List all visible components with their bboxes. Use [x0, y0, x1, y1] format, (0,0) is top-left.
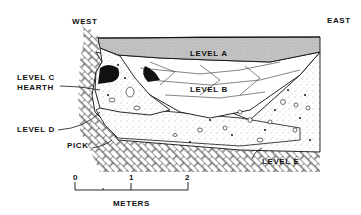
scale-tick-1: 1 — [129, 173, 134, 182]
label-pick: PICK — [67, 141, 89, 150]
scale-tick-2: 2 — [185, 173, 190, 182]
label-east: EAST — [327, 16, 351, 25]
label-hearth: HEARTH — [17, 83, 54, 92]
stratigraphy-section — [0, 0, 361, 215]
scale-bar — [75, 182, 188, 190]
scale-unit: METERS — [113, 199, 150, 208]
label-level-d: LEVEL D — [17, 125, 55, 134]
label-level-a: LEVEL A — [190, 49, 228, 58]
label-level-c: LEVEL C — [17, 73, 55, 82]
label-level-b: LEVEL B — [190, 85, 228, 94]
label-west: WEST — [72, 17, 98, 26]
label-level-e: LEVEL E — [262, 157, 299, 166]
scale-tick-0: 0 — [73, 173, 78, 182]
